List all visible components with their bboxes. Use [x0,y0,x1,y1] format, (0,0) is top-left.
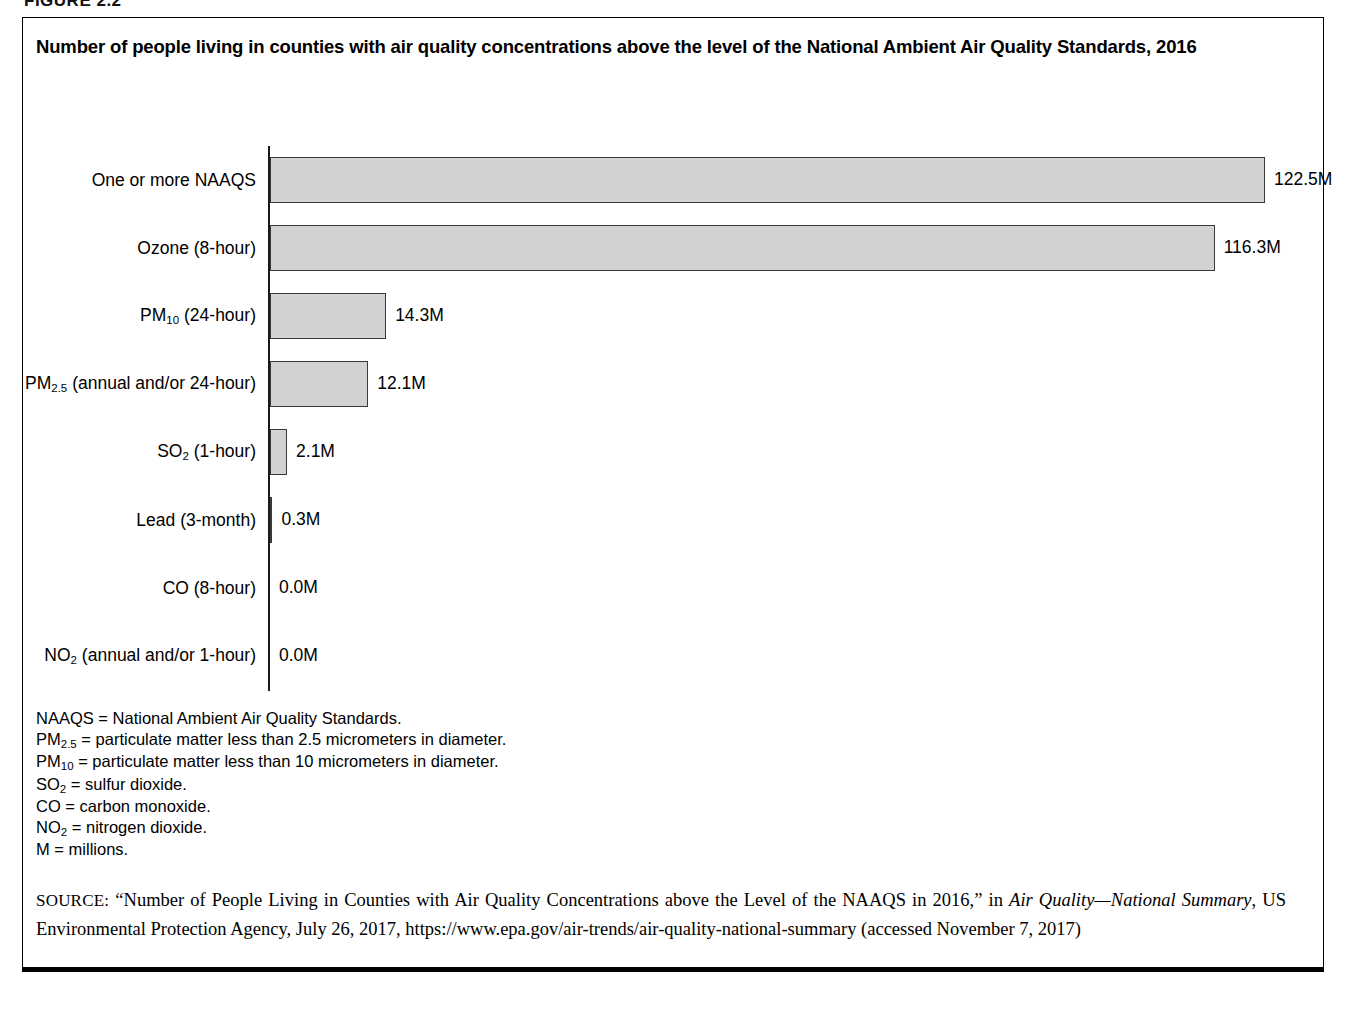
bar-category-label: SO2 (1-hour) [23,441,256,463]
bar-category-label: One or more NAAQS [23,170,256,190]
label-subscript: 2 [71,654,77,666]
footnote-line: PM2.5 = particulate matter less than 2.5… [36,729,1296,752]
label-subscript: 2.5 [51,382,67,394]
footnote-line: SO2 = sulfur dioxide. [36,774,1296,797]
bar-category-label: Ozone (8-hour) [23,238,256,258]
bar-value-label: 14.3M [395,304,444,326]
source-keyword: SOURCE: [36,891,109,910]
bar-category-label: Lead (3-month) [23,510,256,530]
bar-row: CO (8-hour)0.0M [23,554,1323,622]
figure-frame: Number of people living in counties with… [22,17,1324,972]
bar-row: SO2 (1-hour)2.1M [23,418,1323,486]
bar-row: Lead (3-month)0.3M [23,486,1323,554]
bar-row: One or more NAAQS122.5M [23,146,1323,214]
bar-value-label: 0.0M [279,576,318,598]
bar-category-label: PM10 (24-hour) [23,305,256,327]
bar-row: PM10 (24-hour)14.3M [23,282,1323,350]
footnote-line: PM10 = particulate matter less than 10 m… [36,751,1296,774]
footnote-line: M = millions. [36,839,1296,860]
label-subscript: 10 [166,314,179,326]
bar-value-label: 0.0M [279,644,318,666]
footnote-subscript: 10 [61,760,74,772]
footnote-line: NAAQS = National Ambient Air Quality Sta… [36,708,1296,729]
bar-value-label: 122.5M [1274,168,1332,190]
bar[interactable] [270,497,272,543]
bar-chart-plot-area: One or more NAAQS122.5MOzone (8-hour)116… [23,128,1323,693]
footnote-line: CO = carbon monoxide. [36,796,1296,817]
bar-value-label: 12.1M [377,372,426,394]
bar-rows: One or more NAAQS122.5MOzone (8-hour)116… [23,146,1323,691]
bar-row: NO2 (annual and/or 1-hour)0.0M [23,622,1323,690]
bar-value-label: 0.3M [281,508,320,530]
bar-row: PM2.5 (annual and/or 24-hour)12.1M [23,350,1323,418]
footnote-subscript: 2 [60,783,66,795]
bar[interactable] [270,293,386,339]
bar-category-label: CO (8-hour) [23,578,256,598]
bar-value-label: 2.1M [296,440,335,462]
footnote-subscript: 2 [61,826,67,838]
label-subscript: 2 [182,450,188,462]
bar-category-label: NO2 (annual and/or 1-hour) [23,645,256,667]
bar[interactable] [270,225,1215,271]
chart-title: Number of people living in counties with… [36,34,1301,59]
bar[interactable] [270,429,287,475]
bar-row: Ozone (8-hour)116.3M [23,214,1323,282]
source-note: SOURCE: “Number of People Living in Coun… [36,886,1286,943]
figure-number-caption: FIGURE 2.2 [24,0,122,7]
bar-category-label: PM2.5 (annual and/or 24-hour) [23,373,256,395]
source-publication-title: Air Quality—National Summary [1009,890,1251,910]
footnote-line: NO2 = nitrogen dioxide. [36,817,1296,840]
footnote-subscript: 2.5 [61,738,77,750]
footnotes-block: NAAQS = National Ambient Air Quality Sta… [36,708,1296,860]
bar[interactable] [270,361,368,407]
source-text-part1: “Number of People Living in Counties wit… [109,890,1009,910]
bar-value-label: 116.3M [1224,236,1281,258]
bar[interactable] [270,157,1265,203]
